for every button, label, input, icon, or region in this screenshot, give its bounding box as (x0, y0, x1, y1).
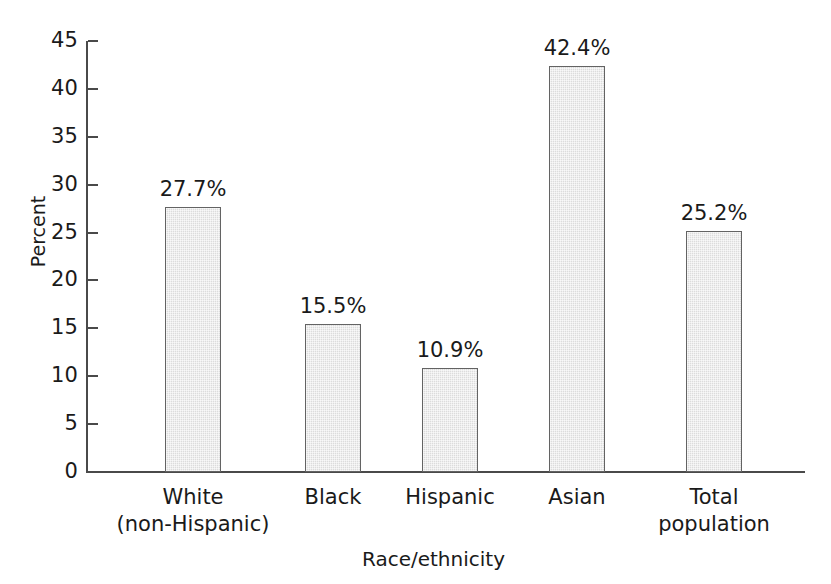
category-label-line-1: Black (305, 485, 362, 509)
bar-value-label: 25.2% (681, 203, 748, 224)
category-label-line-1: Asian (548, 485, 605, 509)
bar[interactable] (686, 231, 742, 472)
bar[interactable] (165, 207, 221, 472)
category-label-line-1: White (162, 485, 223, 509)
bar-value-label: 42.4% (544, 38, 611, 59)
y-axis-tick-label: 45 (38, 30, 78, 51)
bar-group: 15.5% (305, 324, 361, 472)
bar[interactable] (422, 368, 478, 472)
category-label-line-1: Hispanic (405, 485, 494, 509)
bar-value-label: 27.7% (160, 179, 227, 200)
plot-area: 27.7%15.5%10.9%42.4%25.2% (86, 41, 805, 472)
y-axis-tick-label: 35 (38, 126, 78, 147)
bar-chart: Percent 454035302520151050 27.7%15.5%10.… (0, 0, 831, 584)
bar-value-label: 10.9% (417, 340, 484, 361)
bar-group: 42.4% (549, 66, 605, 472)
y-axis-tick-label: 0 (38, 461, 78, 482)
y-axis-tick-label: 25 (38, 222, 78, 243)
category-label-line-2: (non-Hispanic) (103, 511, 283, 538)
y-axis-tick-label: 40 (38, 78, 78, 99)
y-axis-tick-label: 20 (38, 269, 78, 290)
bar-group: 10.9% (422, 368, 478, 472)
y-axis-tick-label: 5 (38, 413, 78, 434)
bar[interactable] (305, 324, 361, 472)
bar[interactable] (549, 66, 605, 472)
y-axis-tick-label: 15 (38, 317, 78, 338)
y-axis-tick-label: 10 (38, 365, 78, 386)
category-label-line-1: Total (689, 485, 738, 509)
bar-group: 27.7% (165, 207, 221, 472)
x-axis-category-label: Totalpopulation (624, 484, 804, 538)
bar-group: 25.2% (686, 231, 742, 472)
category-label-line-2: population (624, 511, 804, 538)
bar-value-label: 15.5% (300, 296, 367, 317)
y-axis-tick-label: 30 (38, 174, 78, 195)
x-axis-title: Race/ethnicity (0, 549, 831, 569)
